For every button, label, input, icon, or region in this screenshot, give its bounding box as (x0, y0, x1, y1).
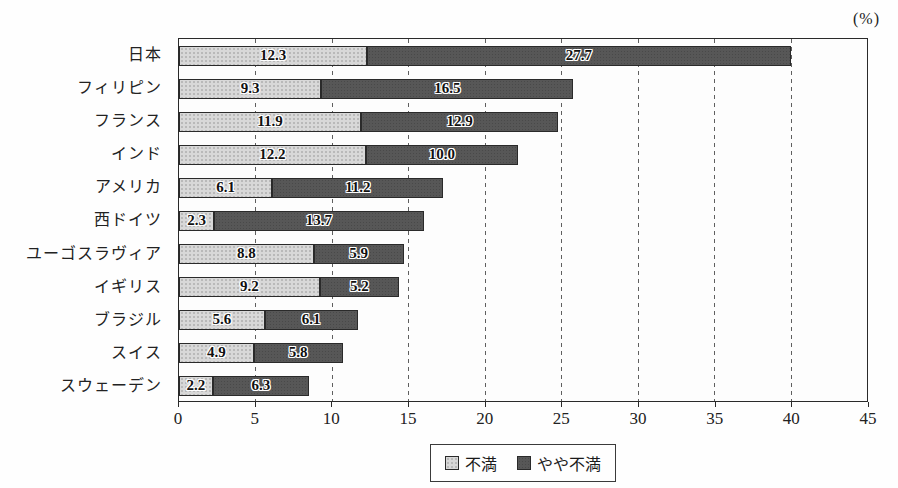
x-tick-mark (561, 402, 562, 407)
legend-swatch-yaya-fuman (517, 456, 531, 470)
value-label: 13.7 (306, 212, 332, 229)
value-label: 2.2 (186, 378, 205, 395)
bar-segment-yaya-fuman: 11.2 (272, 178, 443, 198)
plot-area: 12.327.79.316.511.912.912.210.06.111.22.… (178, 38, 868, 402)
x-tick-label: 30 (630, 409, 647, 429)
bar-segment-fuman: 9.2 (179, 277, 320, 297)
value-label: 8.8 (237, 245, 256, 262)
bar-row: 8.85.9 (179, 244, 867, 264)
value-label: 11.9 (257, 113, 282, 130)
x-tick-mark (715, 402, 716, 407)
legend-item-yaya-fuman: やや不満 (517, 451, 601, 475)
x-tick-mark (485, 402, 486, 407)
value-label: 5.8 (289, 345, 308, 362)
category-label: ユーゴスラヴィア (0, 237, 170, 270)
x-tick-label: 25 (553, 409, 570, 429)
x-tick-label: 45 (860, 409, 877, 429)
x-tick-label: 20 (476, 409, 493, 429)
bar-segment-yaya-fuman: 5.8 (254, 343, 343, 363)
bar-row: 2.26.3 (179, 376, 867, 396)
bar-row: 4.95.8 (179, 343, 867, 363)
bar-segment-fuman: 2.2 (179, 376, 213, 396)
bar-segment-fuman: 9.3 (179, 79, 321, 99)
x-tick-mark (408, 402, 409, 407)
bar-segment-yaya-fuman: 12.9 (361, 112, 558, 132)
legend-item-fuman: 不満 (445, 451, 497, 475)
value-label: 12.9 (446, 113, 472, 130)
value-label: 4.9 (207, 345, 226, 362)
value-label: 6.1 (302, 311, 321, 328)
category-label: インド (0, 137, 170, 170)
category-label: スウェーデン (0, 369, 170, 402)
bar-segment-yaya-fuman: 6.1 (265, 310, 358, 330)
x-tick-mark (178, 402, 179, 407)
x-tick-mark (255, 402, 256, 407)
x-tick-mark (791, 402, 792, 407)
x-tick-label: 35 (706, 409, 723, 429)
bar-segment-yaya-fuman: 13.7 (214, 211, 423, 231)
bar-segment-fuman: 2.3 (179, 211, 214, 231)
bar-row: 5.66.1 (179, 310, 867, 330)
bar-row: 11.912.9 (179, 112, 867, 132)
value-label: 12.2 (259, 146, 285, 163)
legend-label-yaya-fuman: やや不満 (537, 451, 601, 475)
bar-row: 12.327.7 (179, 46, 867, 66)
bar-segment-fuman: 12.3 (179, 46, 367, 66)
bar-row: 12.210.0 (179, 145, 867, 165)
value-label: 10.0 (429, 146, 455, 163)
bar-segment-yaya-fuman: 27.7 (367, 46, 791, 66)
value-label: 6.1 (216, 179, 235, 196)
value-label: 2.3 (187, 212, 206, 229)
category-label: スイス (0, 336, 170, 369)
x-axis: 051015202530354045 (178, 402, 868, 436)
bar-segment-yaya-fuman: 16.5 (321, 79, 573, 99)
bar-segment-yaya-fuman: 10.0 (366, 145, 519, 165)
x-tick-mark (868, 402, 869, 407)
x-tick-label: 15 (400, 409, 417, 429)
value-label: 5.6 (212, 311, 231, 328)
bar-segment-fuman: 12.2 (179, 145, 366, 165)
category-label: アメリカ (0, 170, 170, 203)
category-label: イギリス (0, 270, 170, 303)
bar-segment-yaya-fuman: 6.3 (213, 376, 309, 396)
category-label: フランス (0, 104, 170, 137)
category-label: 日本 (0, 38, 170, 71)
bar-segment-fuman: 11.9 (179, 112, 361, 132)
legend: 不満 やや不満 (430, 444, 616, 482)
value-label: 27.7 (566, 47, 592, 64)
value-label: 16.5 (434, 80, 460, 97)
bar-segment-yaya-fuman: 5.2 (320, 277, 400, 297)
bar-row: 9.25.2 (179, 277, 867, 297)
bar-segment-fuman: 8.8 (179, 244, 314, 264)
category-labels: 日本フィリピンフランスインドアメリカ西ドイツユーゴスラヴィアイギリスブラジルスイ… (0, 38, 170, 402)
value-label: 5.9 (349, 245, 368, 262)
value-label: 5.2 (350, 278, 369, 295)
bar-row: 2.313.7 (179, 211, 867, 231)
category-label: 西ドイツ (0, 203, 170, 236)
category-label: ブラジル (0, 303, 170, 336)
category-label: フィリピン (0, 71, 170, 104)
legend-swatch-fuman (445, 456, 459, 470)
bar-segment-yaya-fuman: 5.9 (314, 244, 404, 264)
x-tick-label: 0 (174, 409, 183, 429)
x-tick-label: 5 (250, 409, 259, 429)
bar-segment-fuman: 6.1 (179, 178, 272, 198)
x-tick-mark (638, 402, 639, 407)
bar-row: 9.316.5 (179, 79, 867, 99)
unit-label: (%) (853, 10, 880, 28)
bar-row: 6.111.2 (179, 178, 867, 198)
legend-label-fuman: 不満 (465, 451, 497, 475)
x-tick-label: 40 (783, 409, 800, 429)
value-label: 9.2 (240, 278, 259, 295)
value-label: 9.3 (241, 80, 260, 97)
bar-segment-fuman: 4.9 (179, 343, 254, 363)
value-label: 12.3 (260, 47, 286, 64)
x-tick-mark (331, 402, 332, 407)
x-tick-label: 10 (323, 409, 340, 429)
value-label: 6.3 (251, 378, 270, 395)
value-label: 11.2 (345, 179, 370, 196)
chart: (%) 日本フィリピンフランスインドアメリカ西ドイツユーゴスラヴィアイギリスブラ… (0, 0, 898, 488)
bar-segment-fuman: 5.6 (179, 310, 265, 330)
